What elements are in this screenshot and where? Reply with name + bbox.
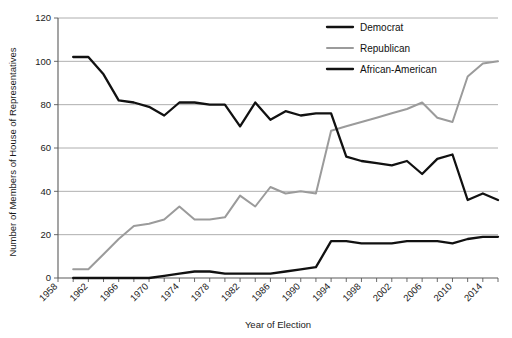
y-tick-label: 120 xyxy=(35,12,51,23)
y-tick-label: 40 xyxy=(40,186,51,197)
legend-label-republican: Republican xyxy=(360,43,410,54)
y-tick-label: 20 xyxy=(40,229,51,240)
chart-container: 020406080100120 195819621966197019741978… xyxy=(0,0,512,338)
y-tick-label: 60 xyxy=(40,142,51,153)
legend-label-democrat: Democrat xyxy=(360,22,404,33)
x-axis-title: Year of Election xyxy=(245,319,311,330)
y-axis-title: Number of Members of House of Representa… xyxy=(7,47,18,256)
line-chart: 020406080100120 195819621966197019741978… xyxy=(0,0,512,338)
y-tick-label: 100 xyxy=(35,56,51,67)
y-tick-label: 80 xyxy=(40,99,51,110)
legend-label-african-american: African-American xyxy=(360,64,437,75)
